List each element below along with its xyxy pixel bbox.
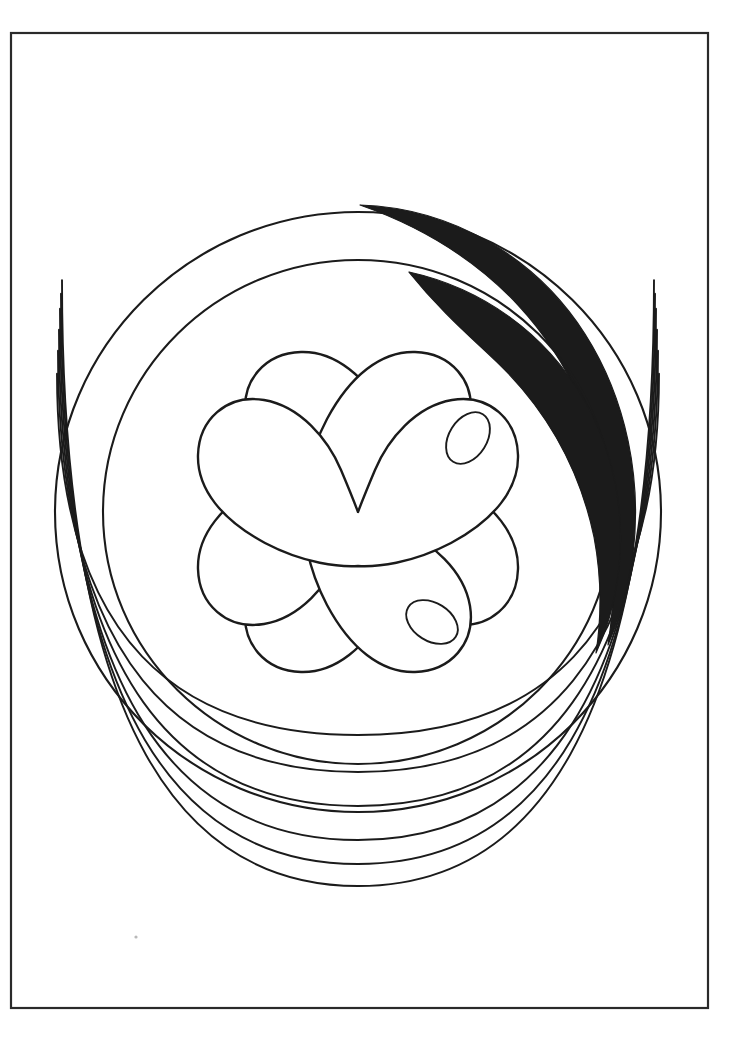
artboard [0, 0, 749, 1059]
coloring-page: Four-Leaf Clover Button Coloring Page fo… [0, 0, 749, 1059]
paper-speck [134, 935, 137, 938]
four-leaf-clover [198, 352, 518, 672]
